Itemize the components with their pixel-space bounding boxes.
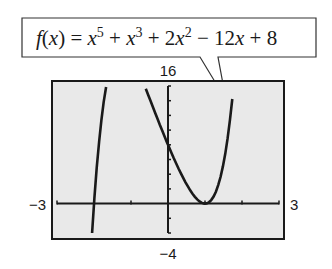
xmin-label: −3 [29, 196, 46, 213]
ymin-label: −4 [159, 245, 176, 262]
calculator-graph: f(x) = x5 + x3 + 2x2 − 12x + 8 16 −4 −3 … [0, 0, 332, 269]
equation-text: f(x) = x5 + x3 + 2x2 − 12x + 8 [36, 25, 277, 50]
xmax-label: 3 [290, 196, 298, 213]
ymax-label: 16 [160, 62, 177, 79]
